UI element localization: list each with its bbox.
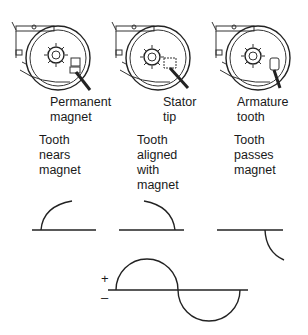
minus-label: – [101,290,108,305]
stage-label-aligned: Toothalignedwithmagnet [137,133,179,193]
waveform-tooth-aligned [119,201,184,230]
sensor-assembly-3 [212,22,290,90]
plus-label: + [101,271,109,286]
reluctor-housing [226,26,290,90]
waveform-tooth-passes [217,230,284,260]
callout-permanent-magnet: Permanentmagnet [50,95,111,125]
callout-armature-tooth: Armaturetooth [237,95,288,125]
stage-label-passes: Toothpassesmagnet [234,133,276,178]
stator-tip-icon [164,58,188,88]
sensor-assembly-2 [112,22,190,90]
magnet-icon [70,58,90,90]
callout-stator-tip: Statortip [163,95,196,125]
armature-icon [44,43,68,67]
sensor-assembly-1 [12,22,90,90]
armature-icon [241,44,265,68]
stage-label-nears: Toothnearsmagnet [39,133,81,178]
armature-icon [140,45,164,69]
armature-tooth-icon [270,58,280,88]
output-sine-wave [108,259,248,321]
waveform-tooth-nears [32,201,96,230]
